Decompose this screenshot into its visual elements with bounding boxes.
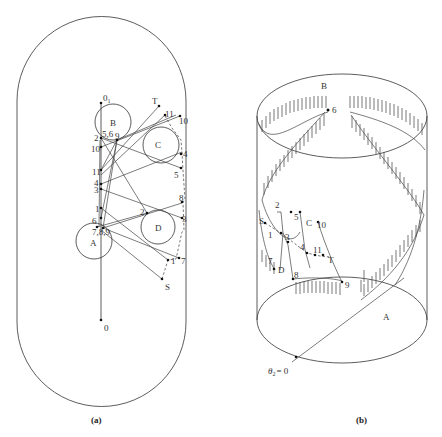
label-3-left: 3 xyxy=(94,185,99,195)
label-2-right: 2 xyxy=(140,207,145,217)
label-4-right: 4 xyxy=(183,149,188,159)
label-b-2: 2 xyxy=(275,200,280,210)
label-7-right: 7 xyxy=(181,256,186,266)
panel-b: B A 6 S 2 5 C 1 3 4 11 T 10 7 D 8 9 θ2= … xyxy=(257,74,427,425)
label-8-right: 8 xyxy=(179,193,184,203)
label-10-right: 10 xyxy=(179,116,189,126)
label-11-right: 11 xyxy=(165,109,174,119)
figure-canvas: 01 0 B C A D T S 5,6 9 2 10 11 4 3 1 6 7… xyxy=(0,0,442,437)
cylinder-bottom-ellipse xyxy=(257,277,427,363)
label-origin-top: 01 xyxy=(103,93,111,104)
label-obstacle-C: C xyxy=(155,140,161,150)
theta-zero-point xyxy=(295,356,298,359)
label-11-left: 11 xyxy=(92,167,101,177)
label-1-left: 1 xyxy=(95,204,100,214)
label-b-6: 6 xyxy=(332,105,337,115)
label-5-right: 5 xyxy=(174,170,179,180)
label-1-right: 1 xyxy=(171,256,176,266)
label-9-top: 9 xyxy=(115,131,120,141)
label-5-6: 5,6 xyxy=(102,129,114,139)
label-obstacle-B: B xyxy=(110,118,116,128)
stadium-workspace-outline xyxy=(17,16,186,406)
label-obstacle-A: A xyxy=(90,238,97,248)
caption-a: (a) xyxy=(91,415,102,425)
label-10-left: 10 xyxy=(91,144,101,154)
label-b-11: 11 xyxy=(313,245,322,255)
obstacle-hatching xyxy=(262,96,422,296)
labels-a: 01 0 B C A D T S 5,6 9 2 10 11 4 3 1 6 7… xyxy=(90,93,189,333)
labels-b: B A 6 S 2 5 C 1 3 4 11 T 10 7 D 8 9 θ2= … xyxy=(259,81,390,377)
label-obstacle-D: D xyxy=(155,223,162,233)
cylinder-top-ellipse xyxy=(257,74,427,158)
label-7-8-9: 7,8,9 xyxy=(92,227,111,237)
label-start: S xyxy=(165,282,170,292)
label-3-right: 3 xyxy=(182,214,187,224)
label-origin-bottom: 0 xyxy=(104,323,109,333)
label-b-5: 5 xyxy=(294,212,299,222)
label-b-4: 4 xyxy=(300,242,305,252)
label-cylinder-top-B: B xyxy=(321,81,327,91)
caption-b: (b) xyxy=(356,415,367,425)
label-theta-zero: θ2= 0 xyxy=(268,366,289,377)
label-b-8: 8 xyxy=(294,270,299,280)
label-b-3: 3 xyxy=(285,232,290,242)
label-b-D: D xyxy=(278,265,285,275)
label-b-7: 7 xyxy=(268,256,273,266)
label-6-left: 6 xyxy=(92,216,97,226)
label-2-left: 2 xyxy=(94,133,99,143)
label-b-9: 9 xyxy=(345,280,350,290)
label-b-C: C xyxy=(306,218,312,228)
label-target: T xyxy=(152,96,158,106)
label-b-10: 10 xyxy=(317,220,327,230)
panel-a: 01 0 B C A D T S 5,6 9 2 10 11 4 3 1 6 7… xyxy=(17,16,189,425)
label-b-T: T xyxy=(328,255,334,265)
label-b-1: 1 xyxy=(268,230,273,240)
label-cylinder-bottom-A: A xyxy=(383,312,390,322)
label-b-S: S xyxy=(259,216,264,226)
